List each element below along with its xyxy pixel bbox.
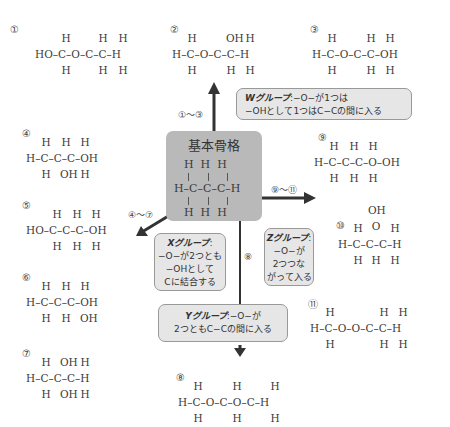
molecule-9: ⑨ H H H H–C–C–C–O–OH H H H — [318, 132, 448, 192]
molecule-1: ① H H H HO–C–O–C–C–H H H H — [10, 24, 140, 84]
molecule-4: ④ H H H H–C–C–C–OH H OH H — [22, 128, 132, 188]
callout-y-group: Yグループ:−O−が 2つともC−Cの間に入る — [158, 304, 288, 342]
molecule-11: ⑪ H H H H–C–O–O–C–C–H H H H — [308, 296, 448, 356]
callout-w-group: Wグループ:−O−が1つは −OHとして1つはC−Cの間に入る — [236, 88, 412, 120]
molecule-5: ⑤ H H H HO–C–C–C–OH H H H — [22, 200, 137, 260]
molecule-2: ② H OH H H–C–O–C–C–H H H H — [170, 24, 300, 84]
molecule-6: ⑥ H H H H–C–C–C–OH H H OH — [22, 272, 132, 332]
molecule-10: ⑩ OH O H H H–C–C–C–H H H H — [336, 204, 446, 284]
molecule-8: ⑧ H H H H–C–O–C–O–C–H H H H — [176, 372, 316, 427]
callout-z-group: Zグループ: −O−が 2つつな がって入る — [264, 228, 314, 286]
core-title: 基本骨格 — [166, 135, 262, 154]
molecule-3: ③ H H H H–C–O–C–C–OH H H H — [310, 24, 445, 84]
core-skeleton-box: 基本骨格 H H H H–C–C–C–H H H H — [166, 131, 262, 221]
range-label-y: ⑧ — [244, 252, 252, 262]
w-group-label: Wグループ — [245, 93, 290, 103]
callout-x-group: Xグループ: −O−が2つとも −OHとして Cに結合する — [154, 233, 226, 291]
molecule-7: ⑦ H OH H H–C–C–C–H H OH H — [22, 348, 132, 408]
range-label-z: ⑨〜⑪ — [271, 183, 297, 196]
range-label-w: ①〜③ — [178, 108, 203, 121]
